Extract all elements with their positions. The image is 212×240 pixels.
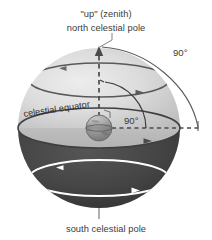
earth-globe bbox=[86, 115, 112, 141]
celestial-sphere-figure: "up" (zenith) north celestial pole celes… bbox=[0, 0, 212, 240]
angle-outer-label: 90° bbox=[173, 47, 188, 58]
south-celestial-pole-label: south celestial pole bbox=[66, 224, 146, 234]
zenith-label: "up" (zenith) bbox=[80, 9, 131, 19]
north-celestial-pole-label: north celestial pole bbox=[67, 23, 146, 33]
celestial-sphere-svg: "up" (zenith) north celestial pole celes… bbox=[0, 0, 212, 240]
angle-inner-label: 90° bbox=[124, 115, 139, 126]
